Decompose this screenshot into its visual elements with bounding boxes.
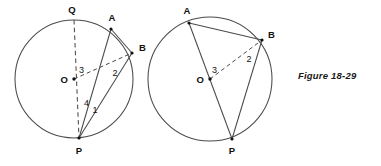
right-label-B: B — [268, 29, 275, 40]
left-label-B: B — [139, 42, 146, 53]
right-segment-OB-radius — [210, 40, 262, 79]
left-angle-label-4: 4 — [84, 98, 89, 108]
left-segment-AP-chord — [79, 29, 111, 138]
geometry-diagram: Q A B P O 3 2 4 1 — [0, 0, 381, 166]
left-label-A: A — [109, 12, 116, 23]
right-label-O: O — [197, 74, 204, 85]
left-segment-BP-chord — [79, 53, 132, 138]
left-angle-label-1: 1 — [92, 105, 97, 115]
left-point-dot-A — [109, 27, 112, 30]
figure-container: Q A B P O 3 2 4 1 — [0, 0, 381, 166]
right-point-dot-O — [208, 77, 211, 80]
right-label-P: P — [229, 145, 236, 156]
left-point-dot-O — [72, 77, 75, 80]
right-label-A: A — [184, 5, 191, 16]
left-label-O: O — [61, 74, 68, 85]
right-angle-label-2: 2 — [246, 54, 251, 64]
left-point-dot-B — [130, 51, 133, 54]
left-angle-label-3: 3 — [79, 65, 84, 75]
left-segment-AB-chord — [111, 29, 132, 53]
figure-caption: Figure 18-29 — [298, 70, 356, 81]
right-point-dot-B — [260, 38, 263, 41]
right-segment-AB-chord — [189, 23, 262, 40]
left-label-Q: Q — [68, 4, 75, 15]
left-label-P: P — [76, 145, 83, 156]
right-point-dot-P — [230, 137, 233, 140]
left-angle-label-2: 2 — [112, 68, 117, 78]
right-point-dot-A — [187, 21, 190, 24]
right-circle-group: A B P O 3 2 — [148, 5, 275, 156]
right-angle-label-3: 3 — [212, 65, 217, 75]
left-point-dot-P — [77, 136, 80, 139]
left-circle-group: Q A B P O 3 2 4 1 — [15, 4, 146, 156]
right-segment-AP-chord — [189, 23, 232, 139]
